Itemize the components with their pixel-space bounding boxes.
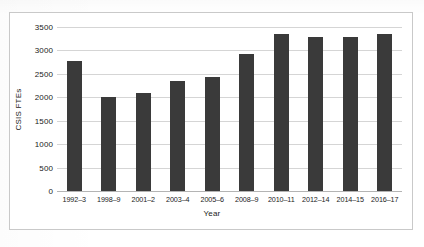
- x-axis-tick-label: 2010–11: [264, 195, 299, 204]
- bar: [274, 34, 289, 191]
- bar: [67, 61, 82, 191]
- bar: [205, 77, 220, 191]
- x-axis-tick-label: 2012–14: [299, 195, 334, 204]
- bar: [377, 34, 392, 191]
- x-axis-tick-label: 2005–6: [195, 195, 230, 204]
- y-axis-tick-label: 2500: [35, 70, 53, 79]
- x-axis-tick-label: 2014–15: [333, 195, 368, 204]
- x-axis-tick-label: 2001–2: [126, 195, 161, 204]
- x-axis-tick-label: 2008–9: [230, 195, 265, 204]
- bar: [101, 97, 116, 191]
- bar: [239, 54, 254, 191]
- y-axis-title-text: CSIS FTEs: [15, 88, 24, 130]
- y-axis-tick-label: 1500: [35, 117, 53, 126]
- bar: [136, 93, 151, 191]
- y-axis-tick-label: 0: [48, 187, 53, 196]
- chart-frame: CSIS FTEs 3500300025002000150010005000 1…: [9, 12, 413, 230]
- y-axis-title: CSIS FTEs: [12, 69, 26, 149]
- x-axis-tick-label: 1992–3: [57, 195, 92, 204]
- y-axis-tick-label: 3000: [35, 46, 53, 55]
- gridline-0: 0: [57, 191, 402, 192]
- plot-area: 3500300025002000150010005000: [57, 27, 402, 191]
- y-axis-tick-label: 1000: [35, 140, 53, 149]
- y-axis-tick-label: 2000: [35, 93, 53, 102]
- x-axis-title: Year: [10, 209, 414, 218]
- x-axis-tick-label: 1998–9: [92, 195, 127, 204]
- y-axis-tick-label: 3500: [35, 23, 53, 32]
- x-axis-tick-label: 2016–17: [368, 195, 403, 204]
- y-axis-tick-label: 500: [39, 164, 53, 173]
- x-axis-tick-label: 2003–4: [161, 195, 196, 204]
- bars-group: [57, 27, 402, 191]
- chart-plot-wrapper: CSIS FTEs 3500300025002000150010005000 1…: [10, 13, 414, 231]
- bar: [308, 37, 323, 191]
- bar: [170, 81, 185, 191]
- bar: [343, 37, 358, 191]
